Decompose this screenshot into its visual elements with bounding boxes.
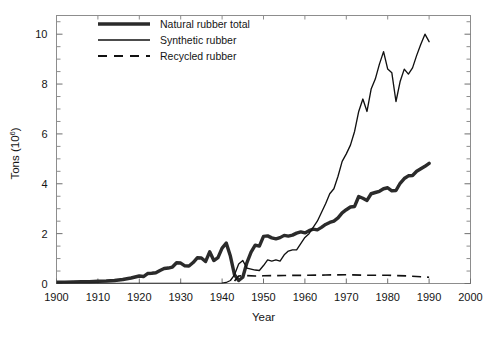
chart-svg: 1900191019201930194019501960197019801990… xyxy=(0,0,485,341)
legend-item: Synthetic rubber xyxy=(98,34,237,46)
x-tick-label: 1970 xyxy=(334,291,358,303)
y-axis-title-text: Tons (106) xyxy=(8,127,21,179)
x-tick-label: 1900 xyxy=(44,291,68,303)
x-axis-title: Year xyxy=(252,311,275,323)
legend-item: Natural rubber total xyxy=(98,18,250,30)
series-line-natural-rubber xyxy=(57,163,430,282)
y-tick-label: 2 xyxy=(41,228,47,240)
x-tick-label: 1930 xyxy=(168,291,192,303)
x-axis: 1900191019201930194019501960197019801990… xyxy=(44,16,482,303)
x-tick-label: 2000 xyxy=(458,291,482,303)
x-tick-label: 1980 xyxy=(375,291,399,303)
x-tick-label: 1950 xyxy=(251,291,275,303)
y-tick-label: 10 xyxy=(35,28,47,40)
legend: Natural rubber totalSynthetic rubberRecy… xyxy=(98,18,250,62)
y-tick-label: 4 xyxy=(41,178,47,190)
y-tick-label: 6 xyxy=(41,128,47,140)
y-tick-label: 0 xyxy=(41,278,47,290)
chart-figure: 1900191019201930194019501960197019801990… xyxy=(0,0,485,341)
series-group xyxy=(57,34,430,283)
x-tick-label: 1990 xyxy=(417,291,441,303)
x-tick-label: 1910 xyxy=(86,291,110,303)
y-axis-title: Tons (106) xyxy=(8,127,21,179)
legend-label: Natural rubber total xyxy=(160,18,250,30)
legend-item: Recycled rubber xyxy=(98,50,237,62)
x-tick-label: 1920 xyxy=(127,291,151,303)
legend-label: Synthetic rubber xyxy=(160,34,237,46)
y-tick-label: 8 xyxy=(41,78,47,90)
legend-label: Recycled rubber xyxy=(160,50,237,62)
series-line-synthetic-rubber xyxy=(57,34,430,283)
x-tick-label: 1960 xyxy=(293,291,317,303)
x-tick-label: 1940 xyxy=(210,291,234,303)
